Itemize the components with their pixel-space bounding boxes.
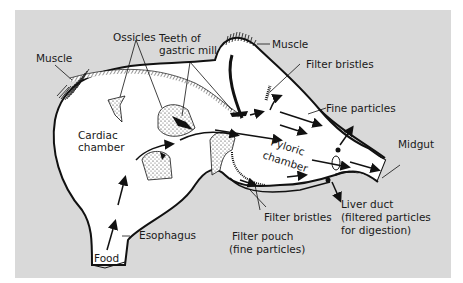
label-cardiac-line1: Cardiac: [78, 129, 118, 141]
label-teeth-line2: gastric mill: [159, 44, 217, 56]
label-ossicles: Ossicles: [113, 31, 156, 43]
label-filter-pouch-line2: (fine particles): [229, 243, 305, 255]
label-midgut: Midgut: [398, 138, 434, 150]
label-food: Food: [94, 252, 119, 264]
label-liver-line2: (filtered particles: [341, 211, 431, 223]
gastric-mill-tooth-lower: [142, 151, 172, 180]
label-filter-bristles-bottom: Filter bristles: [264, 211, 332, 223]
label-muscle-left: Muscle: [36, 52, 72, 64]
stomach-diagram: Muscle Ossicles Teeth of gastric mill Mu…: [0, 0, 463, 283]
label-liver-line3: for digestion): [341, 224, 411, 236]
label-liver-line1: Liver duct: [341, 198, 393, 210]
label-teeth-line1: Teeth of: [158, 32, 201, 44]
label-esophagus: Esophagus: [139, 229, 196, 241]
label-fine-particles: Fine particles: [326, 102, 396, 114]
label-cardiac-line2: chamber: [78, 141, 125, 153]
label-muscle-right: Muscle: [272, 38, 308, 50]
label-filter-bristles-top: Filter bristles: [306, 58, 374, 70]
label-filter-pouch-line1: Filter pouch: [232, 230, 294, 242]
